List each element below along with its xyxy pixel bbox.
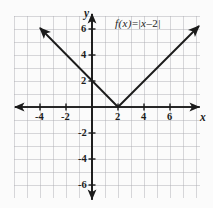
y-tick-label: 6 (81, 24, 86, 35)
y-axis-label: y (84, 8, 89, 20)
y-tick-label: -6 (78, 180, 87, 191)
x-tick-label: 4 (141, 112, 146, 123)
y-tick-label: 2 (81, 76, 86, 87)
x-tick-label: 2 (115, 112, 120, 123)
equation-bar-close: | (158, 17, 161, 29)
y-tick-label: -2 (78, 128, 87, 139)
x-tick-label: 6 (167, 112, 172, 123)
y-tick-label: -4 (78, 154, 87, 165)
x-tick-label: -4 (35, 112, 44, 123)
y-tick-label: 4 (81, 50, 86, 61)
x-axis-label: x (200, 112, 206, 124)
equation-function: f(x) (115, 17, 132, 29)
coordinate-plane (0, 0, 213, 208)
x-tick-label: -2 (61, 112, 70, 123)
function-equation: f(x)=|x–2| (115, 17, 161, 29)
graph-figure: f(x)=|x–2| y x -4 -2 2 4 6 6 4 2 -2 -4 -… (0, 0, 213, 208)
